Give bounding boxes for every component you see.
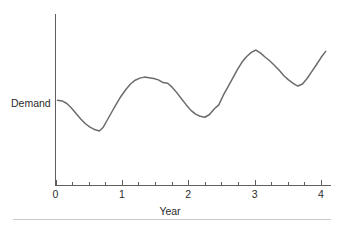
- x-axis-title: Year: [0, 201, 340, 219]
- x-tick-label: 4: [318, 188, 324, 200]
- x-axis-tick-labels: 01234: [53, 188, 325, 200]
- x-tick-label: 1: [119, 188, 125, 200]
- chart-container: 01234 Demand Year: [0, 0, 340, 227]
- demand-line-chart: 01234: [0, 0, 340, 227]
- x-tick-label: 3: [252, 188, 258, 200]
- y-axis-title: Demand: [11, 93, 55, 111]
- x-tick-label: 0: [53, 188, 59, 200]
- x-tick-label: 2: [185, 188, 191, 200]
- demand-series-line: [57, 50, 325, 131]
- x-axis-major-ticks: [57, 180, 322, 186]
